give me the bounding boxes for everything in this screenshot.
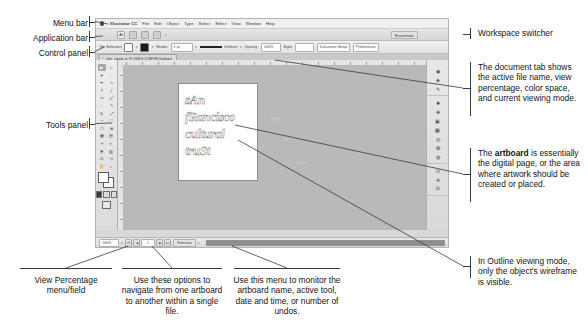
graphic-styles-icon[interactable]: ❂ — [427, 143, 448, 152]
document-setup-button[interactable]: Document Setup — [317, 43, 350, 52]
fill-color-swatch[interactable] — [124, 43, 133, 52]
rotate-tool[interactable]: ↻ — [98, 110, 107, 117]
stroke-weight-field[interactable]: 1 pt — [171, 43, 193, 52]
artboard[interactable]: sAn fRancisco cultural truSt — [178, 83, 258, 181]
menu-item-effect[interactable]: Effect — [216, 21, 227, 26]
color-panel-icon[interactable]: ◉ — [427, 66, 448, 75]
horizontal-scrollbar[interactable] — [206, 240, 445, 246]
scale-tool[interactable]: ⤢ — [107, 110, 116, 117]
artboard-navigation: ⏮ ◀ 1 ▶ ⏭ — [125, 239, 171, 247]
links-panel-icon[interactable]: ⧉ — [427, 184, 448, 193]
preferences-button[interactable]: Preferences — [353, 43, 379, 52]
symbol-sprayer-tool[interactable]: ❋ — [98, 148, 107, 155]
slice-tool[interactable]: ✂ — [107, 155, 116, 162]
menu-item-help[interactable]: Help — [266, 21, 275, 26]
paintbrush-tool[interactable]: 🖌 — [107, 94, 116, 101]
type-tool[interactable]: T — [98, 87, 107, 94]
hand-tool[interactable]: ✋ — [98, 163, 107, 170]
screen-mode-row — [96, 201, 117, 209]
stroke-weight-chevron-down-icon[interactable]: ▾ — [195, 45, 197, 49]
magic-wand-tool[interactable]: ✦ — [98, 72, 107, 79]
artboard-number-field[interactable]: 1 — [141, 239, 155, 247]
menu-item-select[interactable]: Select — [199, 21, 211, 26]
opacity-field[interactable]: 100% — [261, 43, 281, 52]
previous-artboard-icon[interactable]: ◀ — [133, 239, 140, 247]
zoom-tool[interactable]: ⌕ — [107, 163, 116, 170]
free-transform-tool[interactable]: ⬚ — [107, 117, 116, 124]
symbols-panel-icon[interactable]: ✹ — [427, 98, 448, 107]
fill-swatch[interactable] — [98, 172, 109, 183]
menu-item-window[interactable]: Window — [246, 21, 261, 26]
view-mode-icon[interactable] — [141, 31, 149, 39]
menu-item-object[interactable]: Object — [167, 21, 179, 26]
blend-tool[interactable]: ◐ — [107, 140, 116, 147]
gradient-icon[interactable] — [103, 191, 109, 198]
direct-selection-tool[interactable]: ▷ — [107, 64, 116, 71]
column-graph-tool[interactable]: ▥ — [107, 148, 116, 155]
label-tools-panel: Tools panel — [46, 121, 88, 130]
curvature-tool[interactable]: ∿ — [107, 79, 116, 86]
label-menu-bar: Menu bar — [53, 19, 88, 28]
leader-outline-mode — [463, 266, 470, 267]
bracket-document-tab — [470, 62, 471, 116]
stroke-color-swatch[interactable] — [140, 43, 149, 52]
last-artboard-icon[interactable]: ⏭ — [164, 239, 171, 247]
artboards-panel-icon[interactable]: ⊡ — [427, 166, 448, 175]
artwork-line-3: cultural — [185, 125, 252, 142]
width-tool[interactable]: ⌁ — [98, 117, 107, 124]
panel-dock: ◉ ◈ ✎ ✹ ❋ ▣ ▩ ◎ ❂ ◍ ⊡ ❈ ⧉ — [426, 60, 448, 230]
menu-item-view[interactable]: View — [232, 21, 241, 26]
menu-bar[interactable]: Illustrator CC File Edit Object Type Sel… — [96, 19, 448, 29]
screen-mode-icon[interactable] — [153, 31, 161, 39]
search-icon[interactable]: ⌕ — [165, 32, 170, 38]
workspace: ▶ ▷ ✦ ◝ ✒ ∿ T ╱ ▭ 🖌 ◌ ✎ ↻ ⤢ ⌁ ⬚ ⬭ — [96, 60, 448, 247]
view-percentage-field[interactable]: 100% — [99, 239, 119, 247]
artboard-tool[interactable]: ⊡ — [98, 155, 107, 162]
tool-grid: ▶ ▷ ✦ ◝ ✒ ∿ T ╱ ▭ 🖌 ◌ ✎ ↻ ⤢ ⌁ ⬚ ⬭ — [96, 64, 117, 170]
transparency-panel-icon[interactable]: ▩ — [427, 125, 448, 134]
fill-chevron-down-icon[interactable]: ▾ — [136, 45, 138, 49]
libraries-panel-icon[interactable]: ❈ — [427, 175, 448, 184]
next-artboard-icon[interactable]: ▶ — [156, 239, 163, 247]
pencil-tool[interactable]: ✎ — [107, 102, 116, 109]
color-guide-icon[interactable]: ◈ — [427, 75, 448, 84]
rectangle-tool[interactable]: ▭ — [98, 94, 107, 101]
eyedropper-tool[interactable]: ⌖ — [98, 140, 107, 147]
bracket-artboard — [470, 148, 471, 202]
status-menu-chevron-down-icon[interactable]: ▸ — [198, 241, 200, 245]
screen-mode-icon[interactable] — [102, 201, 111, 209]
document-canvas[interactable]: sAn fRancisco cultural truSt — [123, 65, 426, 230]
brush-chevron-down-icon[interactable]: ▾ — [240, 45, 242, 49]
brushes-panel-icon[interactable]: ✎ — [427, 84, 448, 93]
menu-item-edit[interactable]: Edit — [154, 21, 161, 26]
first-artboard-icon[interactable]: ⏮ — [125, 239, 132, 247]
view-percentage-chevron-down-icon[interactable]: ▾ — [121, 241, 123, 245]
line-segment-tool[interactable]: ╱ — [107, 87, 116, 94]
status-menu[interactable]: Selection — [173, 239, 196, 247]
pen-tool[interactable]: ✒ — [98, 79, 107, 86]
gradient-tool[interactable]: ▤ — [107, 132, 116, 139]
layers-panel-icon[interactable]: ◍ — [427, 152, 448, 161]
color-icon[interactable] — [96, 191, 102, 198]
workspace-switcher[interactable]: Essentials — [391, 31, 418, 39]
selection-tool[interactable]: ▶ — [98, 64, 107, 71]
lasso-tool[interactable]: ◝ — [107, 72, 116, 79]
appearance-panel-icon[interactable]: ◎ — [427, 134, 448, 143]
stroke-chevron-down-icon[interactable]: ▾ — [152, 45, 154, 49]
style-field[interactable] — [295, 43, 314, 52]
shape-builder-tool[interactable]: ⬭ — [98, 125, 107, 132]
bridge-icon[interactable] — [100, 32, 104, 38]
arrange-documents-icon[interactable] — [129, 31, 137, 39]
menu-item-type[interactable]: Type — [184, 21, 193, 26]
gradient-panel-icon[interactable]: ▣ — [427, 116, 448, 125]
shaper-tool[interactable]: ◌ — [98, 102, 107, 109]
ai-icon[interactable]: Ai — [117, 31, 125, 39]
menu-item-illustrator[interactable]: Illustrator CC — [110, 21, 137, 26]
dock-group-appearance: ✹ ❋ ▣ ▩ ◎ ❂ ◍ — [427, 96, 448, 164]
menu-item-file[interactable]: File — [142, 21, 149, 26]
stock-icon[interactable]: ◦ — [108, 32, 113, 38]
stroke-panel-icon[interactable]: ❋ — [427, 107, 448, 116]
mesh-tool[interactable]: ▦ — [98, 132, 107, 139]
none-icon[interactable] — [111, 191, 117, 198]
perspective-grid-tool[interactable]: ⊞ — [107, 125, 116, 132]
